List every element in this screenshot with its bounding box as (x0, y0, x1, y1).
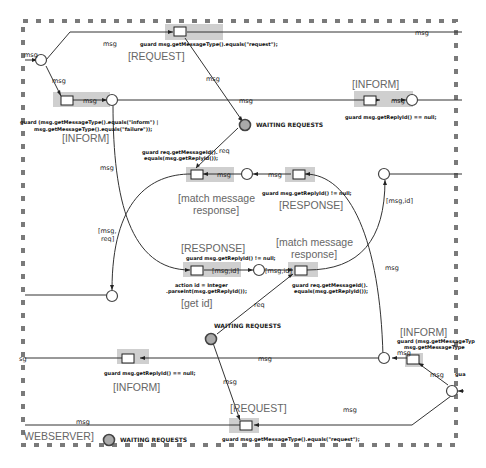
guard-match-bottom-2: equals(msg.getReplyId()); (294, 288, 368, 295)
arc-label-msg: msg (268, 171, 282, 179)
transition-match-top (191, 170, 203, 179)
border-label-webserver: WEBSERVER] (24, 430, 94, 442)
title-get-id-response: [RESPONSE] (181, 242, 245, 254)
arc-label-msg-id: [msg,id] (265, 267, 292, 275)
arc-label-msg: msg (83, 97, 97, 105)
title-inform-bottom-left: [INFORM] (113, 381, 160, 393)
transition-inform-right (364, 96, 376, 105)
action-get-id-2: .parseInt(msg.getReplyId()); (166, 288, 247, 295)
arc-label-msg: msg (76, 418, 90, 426)
transition-request-top (174, 27, 186, 36)
place-waiting-requests-middle (206, 334, 217, 345)
arc-label-msg: msg (258, 355, 272, 363)
guard-match-top-2: equals(msg.getReplyId()); (144, 155, 218, 162)
arc-label-msg: msg (24, 51, 38, 59)
label-waiting-requests-top: WAITING REQUESTS (256, 121, 323, 128)
guard-inform-right: guard msg.getReplyId() == null; (345, 114, 437, 121)
petri-net-diagram: msg guard msg.getMessageType().equals("r… (0, 0, 486, 468)
place-bottom-right (447, 386, 458, 397)
title-match-top-1: [match message (178, 192, 255, 204)
title-match-top-2: response] (193, 204, 239, 216)
arc-label-req: req (219, 147, 230, 155)
subtitle-get-id: [get id] (181, 297, 213, 309)
guard-request-bottom: guard msg.getMessageType().equals("reque… (222, 436, 360, 443)
title-match-bottom-1: [match message (276, 236, 353, 248)
label-waiting-requests-middle: WAITING REQUESTS (214, 322, 281, 329)
place-waiting-requests-top (240, 120, 251, 131)
arc-label-msg: msg (430, 371, 444, 379)
title-match-bottom-2: response] (291, 248, 337, 260)
place-waiting-requests-bottom (104, 435, 115, 446)
guard-response-top: guard msg.getReplyId() != null; (262, 190, 352, 197)
place-bottom-right-mid (379, 353, 390, 364)
arc-label-msg: msg (391, 97, 405, 105)
arc-label-msg: msg (343, 406, 357, 414)
arc-label-msg-req-2: req] (101, 235, 114, 243)
guard-request-top: guard msg.getMessageType().equals("reque… (140, 41, 278, 48)
arc-label-msg-id: [msg,id] (212, 267, 239, 275)
title-inform-bottom-right: [INFORM] (400, 326, 447, 338)
title-inform-right: [INFORM] (352, 78, 399, 90)
guard-inform-br-2: msg.getMessageType (404, 344, 465, 351)
arc-waiting-to-match-top (196, 128, 238, 168)
place-inform-left (107, 95, 118, 106)
arc-label-msg: msg (223, 378, 237, 386)
title-response-top: [RESPONSE] (279, 199, 343, 211)
transition-inform-bottom-left (122, 354, 134, 363)
guard-get-id: guard msg.getReplyId() != null; (186, 255, 276, 262)
arc-label-sg: sg (19, 355, 27, 363)
place-msg-req (107, 291, 118, 302)
arc-label-msg-req-1: [msg, (98, 227, 116, 235)
transition-inform-left (61, 96, 73, 105)
guard-inform-bottom-left: guard msg.getReplyId() == null; (104, 370, 196, 377)
arc-label-msg: msg (397, 349, 411, 357)
transition-response-top (293, 170, 305, 179)
arc-label-msg-id: [msg,id] (386, 197, 413, 205)
place-match-top (242, 169, 253, 180)
transition-get-id (191, 266, 203, 275)
arc-label-msg: msg (217, 171, 231, 179)
title-request-bottom: [REQUEST] (230, 402, 287, 414)
arc-label-req: req (254, 301, 265, 309)
arc-label-msg: msg (52, 77, 66, 85)
arc-label-msg: msg (385, 264, 399, 272)
transition-match-bottom (295, 266, 307, 275)
arc-label-msg: msg (206, 75, 220, 83)
arc-label-msg: msg (100, 164, 114, 172)
arc-label-msg: msg (103, 40, 117, 48)
place-get-id (254, 265, 265, 276)
title-request-top: [REQUEST] (128, 50, 185, 62)
place-right-msg-id (379, 169, 390, 180)
arc-label-msg: msg (415, 29, 429, 37)
arc-label-msg: msg (239, 97, 253, 105)
place-inform-right (407, 95, 418, 106)
guard-truncated: gua (455, 371, 466, 378)
title-inform-left: [INFORM] (62, 132, 109, 144)
guard-inform-left-1: guard (msg.getMessageType().equals("info… (20, 119, 158, 126)
label-waiting-requests-bottom: WAITING REQUESTS (120, 436, 187, 443)
transition-request-bottom (240, 421, 252, 430)
